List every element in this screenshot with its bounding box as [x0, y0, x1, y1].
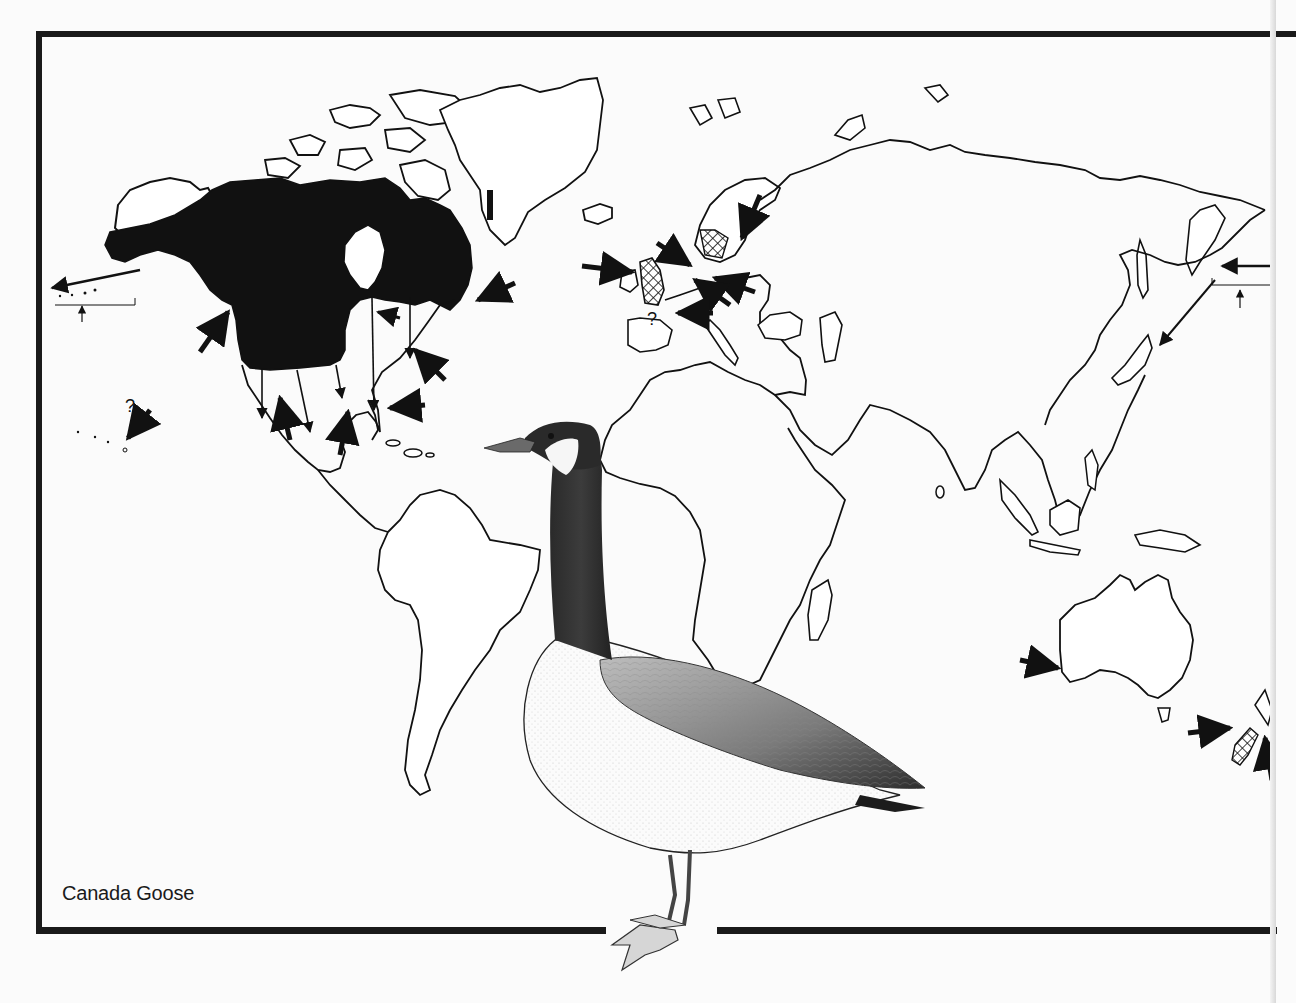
goose-legs — [668, 850, 690, 925]
species-caption: Canada Goose — [62, 882, 194, 905]
kamchatka — [1186, 205, 1225, 275]
caspian-sea — [820, 312, 842, 362]
south-america — [378, 490, 540, 795]
question-mark-france: ? — [647, 309, 657, 329]
sakhalin — [1137, 240, 1148, 298]
madagascar — [808, 580, 832, 640]
iceland — [583, 204, 612, 224]
tasmania — [1158, 708, 1170, 722]
new-zealand-introduced — [1232, 728, 1258, 765]
canada-goose-illustration — [484, 422, 925, 970]
central-america — [318, 470, 388, 532]
black-sea — [758, 312, 802, 340]
goose-eye — [548, 433, 554, 439]
goose-bill — [484, 438, 535, 452]
page-edge-shadow — [1270, 0, 1276, 1003]
new-guinea — [1135, 530, 1200, 552]
goose-feet — [612, 925, 678, 970]
australia — [1060, 575, 1193, 698]
sumatra — [1000, 480, 1038, 535]
java — [1030, 540, 1080, 555]
greenland — [440, 78, 603, 245]
siberia-coast — [760, 140, 1265, 210]
great-britain-introduced — [640, 258, 664, 305]
japan — [1112, 335, 1152, 385]
borneo — [1050, 500, 1080, 535]
north-america — [59, 78, 612, 532]
question-mark-hawaii: ? — [125, 396, 135, 416]
